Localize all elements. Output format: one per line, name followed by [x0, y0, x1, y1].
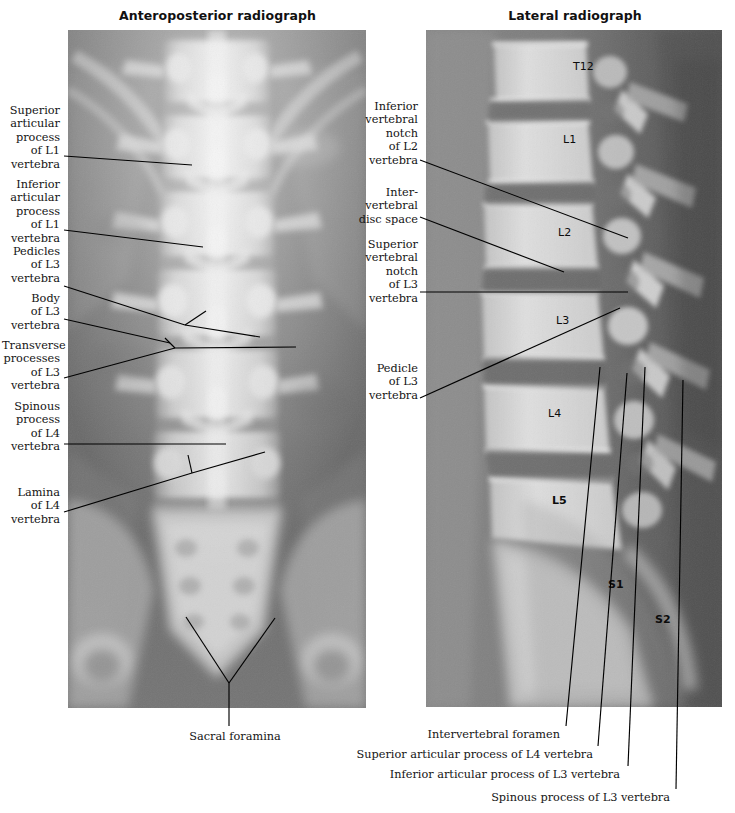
ap-panel-title: Anteroposterior radiograph	[0, 8, 435, 23]
label-intervertebral-disc-space: Inter- vertebral disc space	[358, 186, 418, 226]
label-body-of-l3-vertebra: Body of L3 vertebra	[2, 292, 60, 332]
anteroposterior-radiograph-image	[68, 30, 366, 708]
lateral-radiograph-image	[426, 30, 722, 707]
label-pedicles-of-l3-vertebra: Pedicles of L3 vertebra	[2, 245, 60, 285]
label-inferior-articular-process-of-l1-vertebra: Inferior articular process of L1 vertebr…	[2, 178, 60, 245]
label-lamina-of-l4-vertebra: Lamina of L4 vertebra	[2, 486, 60, 526]
label-inferior-vertebral-notch-of-l2-vertebra: Inferior vertebral notch of L2 vertebra	[358, 100, 418, 167]
ap-radiograph-graphic	[68, 30, 366, 708]
label-sacral-foramina: Sacral foramina	[160, 730, 310, 743]
label-superior-articular-process-of-l1-vertebra: Superior articular process of L1 vertebr…	[2, 104, 60, 171]
label-pedicle-of-l3-vertebra: Pedicle of L3 vertebra	[358, 362, 418, 402]
label-superior-vertebral-notch-of-l3-vertebra: Superior vertebral notch of L3 vertebra	[358, 238, 418, 305]
label-intervertebral-foramen: Intervertebral foramen	[300, 728, 560, 741]
label-spinous-process-of-l4-vertebra: Spinous process of L4 vertebra	[2, 400, 60, 454]
label-transverse-processes-of-l3-vertebra: Transverse processes of L3 vertebra	[2, 339, 60, 393]
label-inferior-articular-process-of-l3-vertebra: Inferior articular process of L3 vertebr…	[300, 768, 620, 781]
label-superior-articular-process-of-l4-vertebra: Superior articular process of L4 vertebr…	[300, 748, 593, 761]
lateral-radiograph-graphic	[426, 30, 722, 707]
label-spinous-process-of-l3-vertebra: Spinous process of L3 vertebra	[340, 791, 670, 804]
lateral-panel-title: Lateral radiograph	[425, 8, 725, 23]
